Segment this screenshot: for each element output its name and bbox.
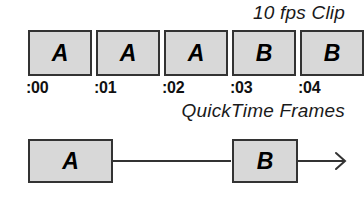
flow-node-b: B: [232, 139, 298, 183]
flow-node-a: A: [28, 139, 113, 183]
flow-node-letter: B: [234, 150, 296, 173]
flow-node-letter: A: [30, 150, 111, 173]
